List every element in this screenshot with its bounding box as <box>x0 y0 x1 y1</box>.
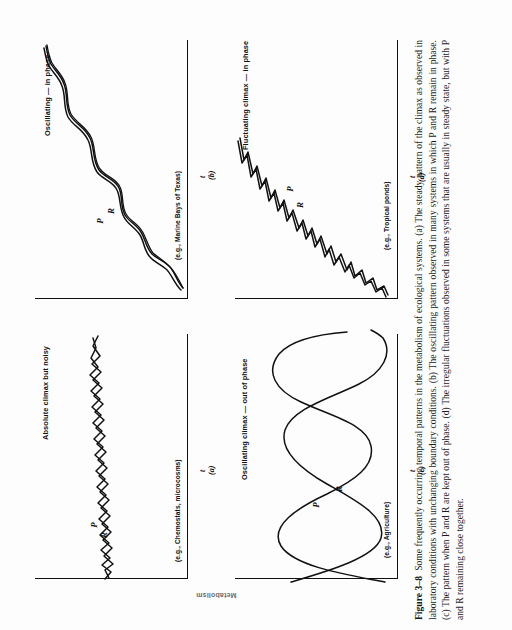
panel-b-curves <box>35 38 190 300</box>
panel-a-axis-right <box>187 334 188 579</box>
panel-c-title: Oscillating climax — out of phase <box>240 358 249 480</box>
panel-b-label-R: R <box>106 208 116 214</box>
panel-a-curves <box>35 332 190 580</box>
figure-page: Oscillating — in phase (e.g., Marine Bay… <box>0 0 512 630</box>
panel-a-title: Absolute climax but noisy <box>41 346 50 440</box>
panel-a-time-label: t <box>198 470 207 472</box>
panel-d-label-P: P <box>285 186 295 192</box>
panel-d-axis-right <box>397 40 398 299</box>
panel-a-label-P: P <box>89 522 99 528</box>
panel-b-example: (e.g., Marine Bays of Texas) <box>174 171 181 260</box>
panel-b-tag: (b) <box>207 171 216 180</box>
panel-b: Oscillating — in phase (e.g., Marine Bay… <box>35 38 190 300</box>
panel-a-example: (e.g., Chemostats, microcosms) <box>174 459 181 562</box>
figure-caption-text: Some frequently occurring temporal patte… <box>413 40 465 620</box>
panel-a-tag: (a) <box>207 466 216 475</box>
panel-c-axis-right <box>397 334 398 579</box>
panel-c-axis-bottom <box>235 578 398 579</box>
panel-c-example: (e.g., Agriculture) <box>383 502 390 558</box>
figure-caption: Figure 3–8 Some frequently occurring tem… <box>412 40 466 620</box>
panel-d-title: Fluctuating climax — in phase <box>241 41 250 150</box>
panel-a: Absolute climax but noisy (e.g., Chemost… <box>35 332 190 580</box>
panel-b-axis-bottom <box>35 298 188 299</box>
panel-b-axis-right <box>187 40 188 299</box>
panel-c-label-R: R <box>334 486 344 492</box>
panel-b-time-label: t <box>198 176 207 178</box>
panel-d-curves <box>235 38 400 300</box>
figure-caption-block: Figure 3–8 Some frequently occurring tem… <box>412 34 466 620</box>
panel-d-axis-bottom <box>235 298 398 299</box>
panel-a-label-R: R <box>99 532 109 538</box>
panel-d-label-R: R <box>295 202 305 208</box>
metabolism-axis-title: Metabolism <box>196 592 237 599</box>
figure-number: Figure 3–8 <box>413 576 424 620</box>
panel-d: Fluctuating climax — in phase (e.g., Tro… <box>235 38 400 300</box>
panel-b-title: Oscillating — in phase <box>43 55 52 136</box>
panel-c: Oscillating climax — out of phase (e.g.,… <box>235 332 400 580</box>
panel-a-axis-bottom <box>35 578 188 579</box>
panel-d-example: (e.g., Tropical ponds) <box>383 181 390 250</box>
panel-c-label-P: P <box>311 502 321 508</box>
panel-c-curves <box>235 332 400 580</box>
panel-b-label-P: P <box>95 218 105 224</box>
